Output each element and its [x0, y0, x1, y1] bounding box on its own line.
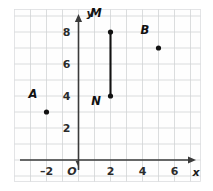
x-tick-label: –2: [40, 165, 53, 178]
point-dot-a: [44, 109, 49, 114]
x-tick-label: 2: [107, 165, 115, 178]
origin-label: O: [67, 165, 76, 178]
y-tick-label: 8: [63, 26, 71, 39]
coordinate-plane-figure: ABMN –22462468 x y O: [0, 0, 213, 191]
x-axis-label: x: [191, 166, 200, 179]
point-label-a: A: [27, 87, 37, 101]
point-label-n: N: [91, 94, 101, 108]
point-dot-b: [156, 45, 161, 50]
point-dot-m: [108, 29, 113, 34]
coordinate-plane-svg: ABMN –22462468 x y O: [0, 0, 213, 191]
point-dot-n: [108, 93, 113, 98]
x-tick-label: 4: [139, 165, 147, 178]
y-axis-label: y: [86, 7, 94, 20]
y-tick-label: 2: [63, 122, 71, 135]
y-tick-label: 4: [63, 90, 71, 103]
x-tick-label: 6: [171, 165, 179, 178]
grid-panel: [15, 10, 201, 182]
point-label-b: B: [141, 23, 150, 37]
y-tick-label: 6: [63, 58, 71, 71]
